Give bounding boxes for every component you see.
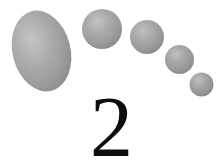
figure-numeral: 2 <box>0 84 224 163</box>
footprint-figure: 2 <box>0 0 224 163</box>
footprint-toe-3 <box>165 45 194 74</box>
footprint-toe-1 <box>82 9 122 49</box>
footprint-toe-2 <box>130 20 164 54</box>
